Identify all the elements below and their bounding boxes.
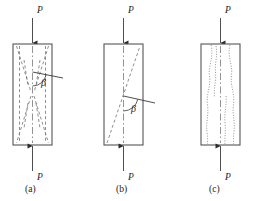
panel-caption-a: (a)	[25, 184, 36, 195]
panel-caption-c: (c)	[209, 184, 220, 195]
load-label-top-c: P	[224, 5, 231, 15]
angle-label-b: β	[130, 103, 136, 114]
compression-failure-modes-figure: P β P (a) P β	[0, 0, 266, 201]
load-label-top-a: P	[36, 5, 43, 15]
panel-caption-b: (b)	[116, 184, 127, 195]
panel-b: P β P (b)	[104, 5, 155, 195]
angle-label-a: β	[40, 77, 46, 88]
panel-a: P β P (a)	[13, 5, 63, 195]
panel-c: P P (c)	[201, 5, 240, 195]
load-label-bottom-b: P	[127, 172, 134, 182]
load-label-bottom-a: P	[36, 172, 43, 182]
load-label-top-b: P	[127, 5, 134, 15]
load-label-bottom-c: P	[224, 172, 231, 182]
